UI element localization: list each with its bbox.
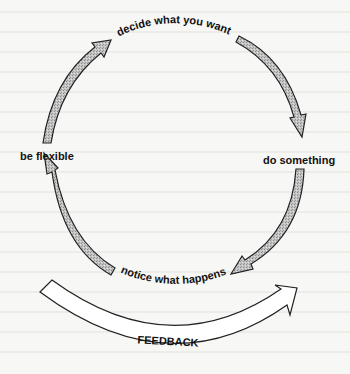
step-label-do-something: do something [263,154,335,166]
arrow-do-to-notice [231,169,304,274]
feedback-cycle-diagram: decide what you want do something notice… [0,0,350,374]
feedback-label: FEEDBACK [137,333,199,348]
arrow-decide-to-do [236,36,306,137]
step-label-decide: decide what you want [115,13,234,38]
step-label-be-flexible: be flexible [20,150,74,162]
step-label-notice: notice what happens [120,263,228,286]
arrow-flexible-to-decide [43,40,111,143]
feedback-arrow [40,280,297,343]
arrow-notice-to-flexible [44,153,115,275]
